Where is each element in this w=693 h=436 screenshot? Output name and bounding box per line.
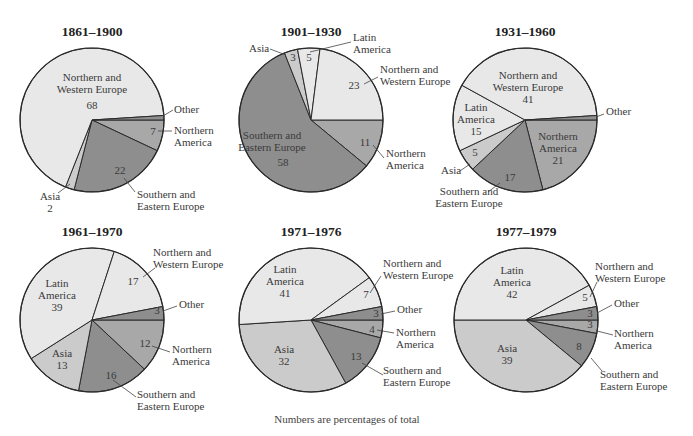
slice-label: 5 [306,51,312,63]
leader-line [597,305,612,313]
slice-label: Other [614,297,639,309]
slice-label: 3 [154,304,160,316]
slice-label: 7 [363,288,369,300]
slice-label: Southern andEastern Europe [137,388,205,412]
pie-title: 1977–1979 [496,224,557,239]
slice-label: Other [397,303,422,315]
slice-label: Other [174,103,199,115]
slice-label: 16 [106,369,118,381]
pie-charts-svg: 1861–1900Northern andWestern Europe68Oth… [0,0,693,436]
slice-label: 12 [140,337,151,349]
slice-label: 7 [150,125,156,137]
leader-line [362,363,383,375]
slice-label: Northern andWestern Europe [595,260,665,284]
slice-label: NorthernAmerica [396,326,436,350]
pie-1961-1970: 1961–1970Northern andWestern Europe17Lat… [20,224,223,412]
leader-line [163,110,173,116]
slice-label: LatinAmerica [353,31,391,55]
slice-label: Southern andEastern Europe [238,129,306,153]
caption: Numbers are percentages of total [274,413,419,425]
pie-title: 1901–1930 [281,24,342,39]
slice-label: 11 [360,136,371,148]
pie-1977-1979: 1977–1979LatinAmerica42Northern andWeste… [454,224,668,392]
pie-chart-figure: 1861–1900Northern andWestern Europe68Oth… [0,0,693,436]
leader-line [270,49,286,55]
slice-label: 5 [472,146,478,158]
slice-label: 17 [128,275,140,287]
pie-1971-1976: 1971–1976LatinAmerica41Northern andWeste… [239,224,453,392]
slice-label: Asia [441,164,461,176]
leader-line [597,331,613,335]
slice-label: Northern andWestern Europe [383,257,453,281]
slice-label: Southern andEastern Europe [383,364,451,388]
pie-title: 1961–1970 [62,224,123,239]
slice-label: Southern andEastern Europe [137,188,205,212]
slice-northern-and-western-europe [311,49,383,120]
slice-label: 3 [587,318,593,330]
pie-1931-1960: 1931–1960Northern andWestern Europe41Lat… [435,24,631,209]
slice-label: 23 [349,79,361,91]
slice-label: Southern andEastern Europe [600,368,668,392]
pie-group: 1861–1900Northern andWestern Europe68Oth… [20,24,668,412]
slice-label: NorthernAmerica [386,147,426,171]
slice-label: 22 [115,164,126,176]
slice-label: NorthernAmerica [614,327,654,351]
slice-label: Northern andWestern Europe [57,71,127,95]
slice-label: 17 [505,171,517,183]
slice-label: 4 [369,323,375,335]
pie-title: 1931–1960 [495,24,556,39]
leader-line [163,306,177,311]
pie-title: 1861–1900 [62,24,123,39]
slice-label: Other [179,298,204,310]
slice-label: 68 [87,99,99,111]
pie-title: 1971–1976 [281,224,342,239]
slice-label: 58 [278,156,290,168]
slice-label: 13 [351,350,363,362]
slice-label: 3 [373,307,379,319]
slice-label: Northern andWestern Europe [153,246,223,270]
slice-label: Southern andEastern Europe [435,185,503,209]
slice-label: Asia [249,42,269,54]
slice-label: 3 [290,51,296,63]
slice-label: NorthernAmerica [172,343,212,367]
slice-label: 8 [576,340,582,352]
slice-label: 5 [582,291,588,303]
slice-label: Other [606,105,631,117]
leader-line [460,164,470,171]
pie-1861-1900: 1861–1900Northern andWestern Europe68Oth… [20,24,214,214]
slice-label: Northern andWestern Europe [380,63,450,87]
slice-label: Asia2 [40,190,60,214]
slice-label: NorthernAmerica [174,124,214,148]
pie-1901-1930: 1901–1930LatinAmericaAsia35Northern andW… [238,24,450,192]
